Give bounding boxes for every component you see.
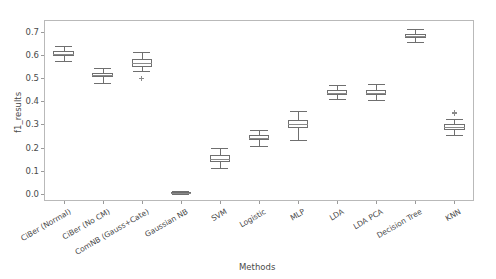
x-tick-mark	[220, 201, 221, 204]
x-tick-mark	[142, 201, 143, 204]
whisker-upper	[220, 148, 221, 155]
cap-lower	[250, 146, 267, 147]
y-tick-label: 0.6	[0, 50, 39, 60]
x-axis-label: Methods	[239, 262, 275, 272]
y-tick-mark	[41, 101, 44, 102]
cap-lower	[94, 83, 111, 84]
figure: 0.00.10.20.30.40.50.60.7f1_resultsCiBer …	[0, 0, 496, 279]
x-tick-mark	[181, 201, 182, 204]
cap-lower	[211, 168, 228, 169]
x-tick-mark	[415, 201, 416, 204]
cap-upper	[55, 46, 72, 47]
outlier-marker	[140, 77, 143, 80]
plot-area	[44, 20, 474, 201]
cap-upper	[94, 68, 111, 69]
y-tick-label: 0.5	[0, 73, 39, 83]
whisker-lower	[298, 128, 299, 140]
cap-upper	[250, 130, 267, 131]
y-tick-label: 0.0	[0, 189, 39, 199]
median-line	[444, 127, 464, 128]
cap-lower	[290, 140, 307, 141]
y-tick-mark	[41, 55, 44, 56]
median-line	[249, 138, 269, 139]
median-line	[53, 54, 73, 55]
x-tick-mark	[103, 201, 104, 204]
median-line	[366, 93, 386, 94]
cap-lower	[446, 135, 463, 136]
cap-upper	[290, 111, 307, 112]
median-line	[92, 75, 112, 76]
y-tick-label: 0.1	[0, 166, 39, 176]
x-tick-mark	[337, 201, 338, 204]
whisker-upper	[142, 52, 143, 59]
y-tick-mark	[41, 194, 44, 195]
cap-upper	[407, 29, 424, 30]
y-tick-label: 0.2	[0, 143, 39, 153]
cap-upper	[446, 119, 463, 120]
y-tick-label: 0.7	[0, 27, 39, 37]
median-line	[327, 93, 347, 94]
median-line	[288, 124, 308, 125]
x-tick-mark	[259, 201, 260, 204]
cap-lower	[407, 42, 424, 43]
cap-lower	[55, 61, 72, 62]
cap-lower	[133, 71, 150, 72]
median-line	[171, 193, 191, 194]
cap-lower	[329, 99, 346, 100]
outlier-marker	[453, 111, 456, 114]
y-tick-mark	[41, 32, 44, 33]
y-tick-mark	[41, 171, 44, 172]
cap-lower	[368, 100, 385, 101]
median-line	[210, 159, 230, 160]
y-tick-mark	[41, 124, 44, 125]
x-tick-mark	[64, 201, 65, 204]
cap-upper	[133, 52, 150, 53]
y-tick-mark	[41, 78, 44, 79]
whisker-upper	[298, 111, 299, 120]
x-tick-mark	[454, 201, 455, 204]
cap-upper	[329, 85, 346, 86]
cap-upper	[368, 84, 385, 85]
median-line	[405, 36, 425, 37]
median-line	[132, 63, 152, 64]
y-tick-mark	[41, 148, 44, 149]
cap-upper	[211, 148, 228, 149]
x-tick-mark	[376, 201, 377, 204]
y-axis-label: f1_results	[13, 91, 23, 132]
x-tick-mark	[298, 201, 299, 204]
